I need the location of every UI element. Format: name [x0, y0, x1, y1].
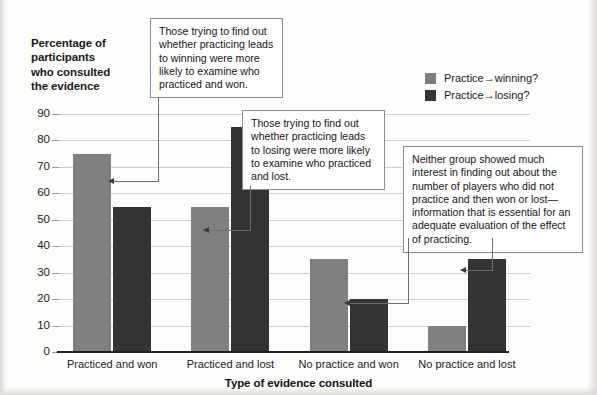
bar [113, 207, 151, 352]
bar [468, 259, 506, 352]
y-axis-tick-label: 60 [20, 187, 50, 199]
callout-practiced-and-won: Those trying to find out whether practic… [150, 18, 283, 98]
bar [73, 154, 111, 352]
legend-swatch-icon-practice-winning [425, 73, 436, 84]
callout-practiced-and-lost: Those trying to find out whether practic… [242, 110, 385, 190]
x-axis-line [57, 351, 509, 353]
legend-item-practice-winning: Practice→winning? [425, 70, 538, 86]
callout-2-arrowhead [203, 227, 209, 233]
chart-page: Percentage of participants who consulted… [0, 0, 597, 395]
legend-label-practice-losing: Practice→losing? [444, 90, 530, 101]
y-axis-title-line-3: who consulted [31, 65, 156, 79]
y-axis-tick-label: 70 [20, 161, 50, 173]
y-axis-tick-label: 30 [20, 267, 50, 279]
legend-item-practice-losing: Practice→losing? [425, 87, 538, 103]
callout-3-arrowhead-lower [344, 300, 350, 306]
y-axis-tick-label: 40 [20, 240, 50, 252]
y-axis-tick-label: 10 [20, 320, 50, 332]
callout-3-arrowhead-upper [460, 267, 466, 273]
bar [310, 259, 348, 352]
y-axis-tick-label: 50 [20, 214, 50, 226]
legend-swatch-icon-practice-losing [425, 90, 436, 101]
y-axis-tick-label: 90 [20, 108, 50, 120]
callout-no-practice: Neither group showed much interest in fi… [403, 146, 583, 253]
page-edge-shadow-right [587, 0, 597, 395]
y-axis-title-line-2: participants [31, 50, 156, 64]
bar [428, 326, 466, 352]
x-axis-title: Type of evidence consulted [0, 377, 597, 389]
bar [191, 207, 229, 352]
x-axis-tick-label: No practice and lost [392, 358, 542, 370]
callout-1-arrowhead [108, 178, 114, 184]
y-axis-tick-label: 20 [20, 293, 50, 305]
chart-legend: Practice→winning? Practice→losing? [425, 70, 538, 104]
legend-label-practice-winning: Practice→winning? [444, 73, 538, 84]
bar [350, 299, 388, 352]
y-axis-title: Percentage of participants who consulted… [31, 36, 156, 93]
y-axis-tick-label: 80 [20, 134, 50, 146]
y-axis-title-line-4: the evidence [31, 79, 156, 93]
y-axis-title-line-1: Percentage of [31, 36, 156, 50]
y-axis-tick-label: 0 [20, 346, 50, 358]
page-edge-shadow-left [0, 0, 6, 395]
